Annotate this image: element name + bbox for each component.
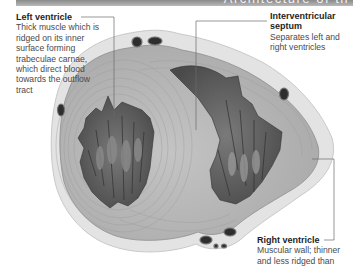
left-ventricle-title: Left ventricle — [16, 12, 108, 22]
right-ventricle-label: Right ventricle Muscular wall; thinner a… — [257, 235, 353, 266]
right-ventricle-title: Right ventricle — [257, 235, 353, 245]
left-ventricle-description: Thick muscle which is ridged on its inne… — [16, 22, 108, 95]
septum-description: Separates left and right ventricles — [270, 32, 352, 53]
left-ventricle-label: Left ventricle Thick muscle which is rid… — [16, 12, 108, 95]
septum-label: Interventricular septum Separates left a… — [270, 11, 352, 53]
right-ventricle-description: Muscular wall; thinner and less ridged t… — [257, 245, 353, 266]
septum-title: Interventricular septum — [270, 11, 352, 32]
